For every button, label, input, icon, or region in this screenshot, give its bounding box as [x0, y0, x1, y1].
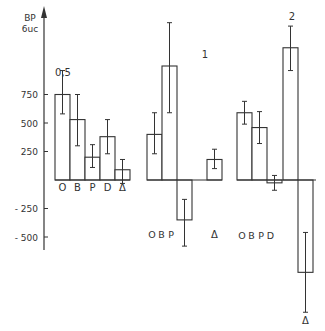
y-axis-label: BP	[24, 13, 36, 23]
bars	[55, 23, 316, 313]
category-label: B	[248, 230, 255, 241]
category-label: O	[238, 230, 245, 241]
bar-chart: BP6uc750500250- 250- 500 0,5OBPDΔ1OBPΔ2O…	[0, 0, 325, 331]
category-label: Δ	[211, 229, 218, 240]
group-label: 2	[289, 11, 295, 22]
y-tick-label: 250	[21, 147, 38, 157]
category-label: Δ	[119, 182, 126, 193]
y-axis-label: 6uc	[22, 24, 38, 34]
category-label: Δ	[302, 315, 309, 326]
y-tick-label: - 500	[15, 233, 39, 243]
category-label: D	[267, 230, 274, 241]
category-label: O	[59, 182, 67, 193]
group-label: 0,5	[55, 67, 71, 78]
arrow-up-icon	[41, 6, 47, 18]
category-label: P	[258, 230, 264, 241]
category-label: O	[148, 229, 155, 240]
y-tick-label: 500	[21, 119, 38, 129]
y-tick-label: - 250	[15, 204, 39, 214]
y-tick-label: 750	[21, 90, 38, 100]
category-label: P	[168, 229, 174, 240]
group-label: 1	[202, 49, 208, 60]
category-label: P	[89, 182, 95, 193]
category-label: D	[104, 182, 112, 193]
y-axis: BP6uc750500250- 250- 500	[15, 6, 48, 250]
category-label: B	[74, 182, 81, 193]
category-label: B	[158, 229, 165, 240]
